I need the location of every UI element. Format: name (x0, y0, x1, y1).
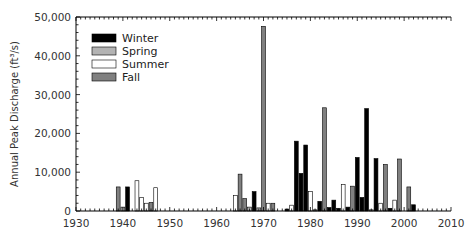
bar-fall-2001 (407, 187, 411, 211)
x-tick-label: 1950 (156, 217, 183, 229)
x-tick-label: 1940 (110, 217, 137, 229)
bar-winter-1941 (126, 187, 130, 211)
bar-winter-1968 (252, 192, 256, 211)
bar-winter-1977 (294, 141, 298, 211)
discharge-bar-chart: 193019401950196019701980199020002010010,… (0, 0, 473, 238)
legend-label-spring: Spring (122, 45, 158, 58)
bar-winter-1994 (374, 159, 378, 211)
x-tick-label: 1980 (297, 217, 324, 229)
bar-fall-1983 (323, 108, 327, 211)
bar-fall-1996 (383, 164, 387, 211)
legend: WinterSpringSummerFall (92, 32, 169, 84)
bar-fall-1989 (351, 186, 355, 211)
legend-swatch-summer (92, 60, 116, 68)
y-axis-title: Annual Peak Discharge (ft³/s) (9, 41, 20, 187)
bar-winter-1978 (299, 173, 303, 211)
bar-summer-1987 (341, 185, 345, 211)
legend-label-summer: Summer (122, 58, 169, 71)
y-tick-label: 0 (64, 205, 71, 217)
y-tick-label: 10,000 (34, 166, 71, 178)
legend-label-fall: Fall (122, 71, 140, 84)
bar-winter-1979 (304, 145, 308, 211)
x-tick-label: 1960 (203, 217, 230, 229)
x-tick-label: 1930 (63, 217, 90, 229)
y-tick-label: 40,000 (34, 50, 71, 62)
x-tick-label: 1990 (344, 217, 371, 229)
bar-summer-1947 (154, 188, 158, 211)
y-tick-label: 20,000 (34, 127, 71, 139)
bar-winter-1992 (365, 109, 369, 211)
y-tick-label: 30,000 (34, 89, 71, 101)
x-tick-label: 1970 (250, 217, 277, 229)
x-tick-label: 2000 (391, 217, 418, 229)
legend-swatch-spring (92, 47, 116, 55)
bars-group (116, 26, 415, 211)
bar-fall-1939 (116, 187, 120, 211)
legend-label-winter: Winter (122, 32, 159, 45)
y-tick-label: 50,000 (34, 11, 71, 23)
bar-fall-1970 (262, 26, 266, 211)
bar-winter-1990 (355, 157, 359, 211)
x-tick-label: 2010 (438, 217, 465, 229)
bar-summer-1943 (135, 181, 139, 211)
bar-fall-1999 (398, 159, 402, 211)
legend-swatch-fall (92, 73, 116, 81)
bar-fall-1965 (238, 174, 242, 211)
legend-swatch-winter (92, 34, 116, 42)
